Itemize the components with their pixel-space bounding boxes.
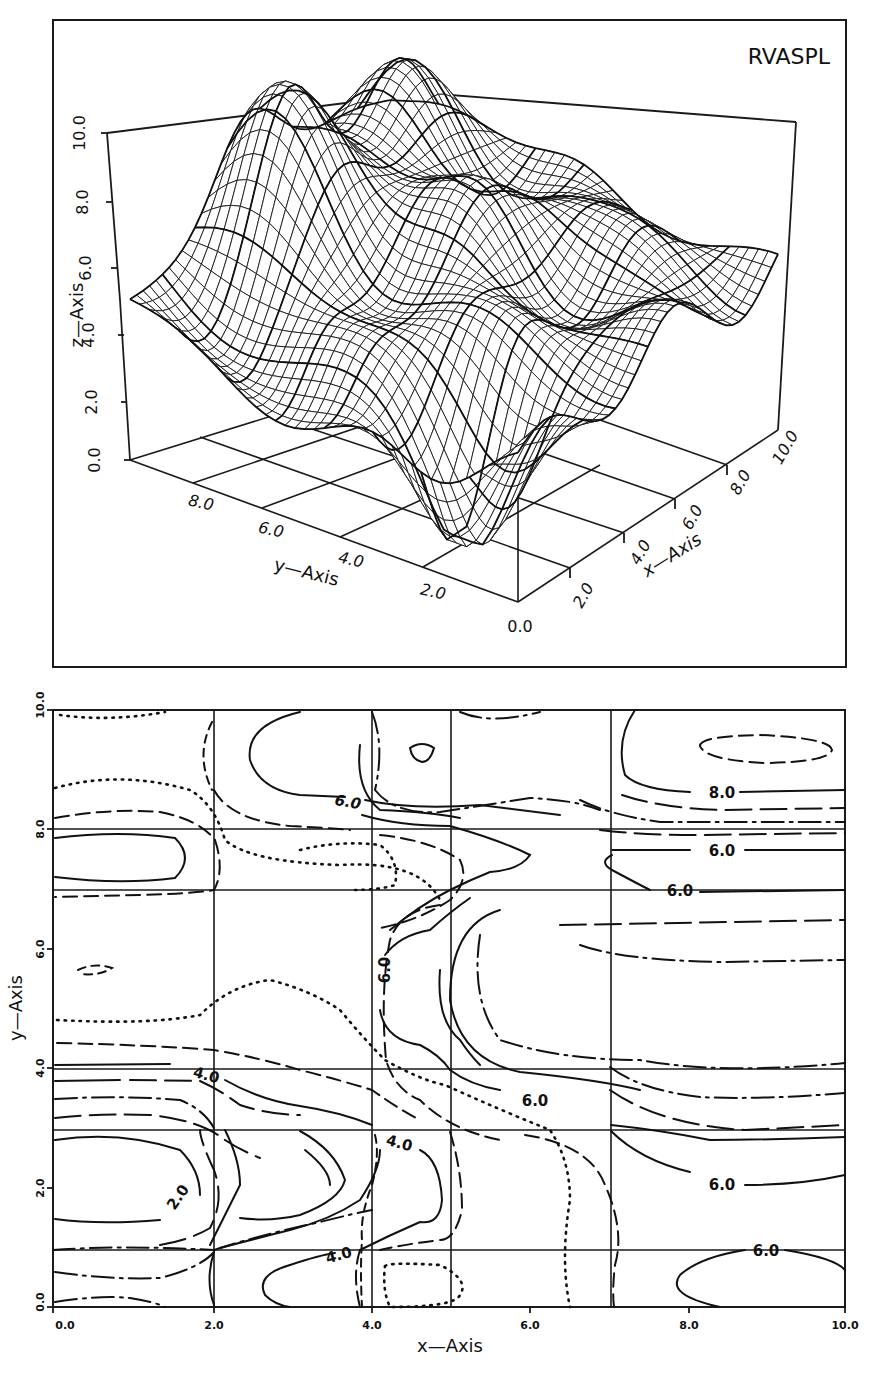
x-axis-3d: 0.0 2.0 4.0 6.0 8.0 10.0 x—Axis: [507, 427, 802, 636]
y-axis-3d-label: y—Axis: [272, 554, 341, 590]
contour-level-labels: 6.0 8.0 6.0 6.0 6.0 6.0 6.0 6.0 4.0 4.0 …: [163, 784, 779, 1267]
contour-label: 8.0: [709, 784, 736, 802]
x-tick: 4.0: [362, 1319, 382, 1332]
contour-label: 4.0: [384, 1131, 414, 1155]
contour-y-ticks: 0.0 2.0 4.0 6.0 8.0 10.0 y—Axis: [5, 691, 53, 1312]
z-tick-2: 2.0: [82, 389, 101, 414]
x-tick: 6.0: [520, 1319, 540, 1332]
contour-label: 6.0: [709, 842, 736, 860]
x-tick: 2.0: [204, 1319, 224, 1332]
surface-title: RVASPL: [748, 44, 831, 69]
x-tick-8: 8.0: [726, 466, 755, 498]
y-tick: 0.0: [34, 1292, 47, 1312]
contour-label: 6.0: [667, 882, 694, 900]
x-tick-0: 0.0: [507, 617, 532, 636]
x-tick: 0.0: [55, 1319, 75, 1332]
y-tick-8: 8.0: [187, 491, 216, 515]
z-tick-8: 8.0: [73, 189, 92, 214]
contour-label: 4.0: [191, 1063, 221, 1087]
contour-plot: 6.0 8.0 6.0 6.0 6.0 6.0 6.0 6.0 4.0 4.0 …: [5, 691, 859, 1356]
y-axis-3d: 8.0 6.0 4.0 2.0 y—Axis: [187, 491, 448, 604]
y-tick: 8.0: [34, 819, 47, 839]
contour-y-axis-label: y—Axis: [5, 975, 26, 1041]
x-tick-2: 2.0: [569, 579, 598, 611]
z-tick-0: 0.0: [85, 447, 104, 472]
y-tick-4: 4.0: [337, 548, 366, 572]
z-tick-6: 6.0: [76, 255, 95, 280]
contour-label: 6.0: [753, 1242, 780, 1260]
contour-label: 2.0: [163, 1181, 193, 1213]
y-tick: 10.0: [34, 691, 47, 718]
contour-x-ticks: 0.0 2.0 4.0 6.0 8.0 10.0 x—Axis: [53, 1307, 859, 1356]
contour-x-axis-label: x—Axis: [417, 1335, 483, 1356]
figure-canvas: RVASPL 0.0 2.: [0, 0, 872, 1376]
surface-wireframe-mesh: [130, 58, 778, 547]
contour-label: 6.0: [376, 957, 394, 984]
x-tick: 8.0: [679, 1319, 699, 1332]
z-axis-label: z—Axis: [66, 283, 87, 348]
x-tick: 10.0: [831, 1319, 858, 1332]
contour-label: 6.0: [709, 1176, 736, 1194]
y-tick-6: 6.0: [257, 518, 286, 542]
contour-label: 6.0: [522, 1092, 549, 1110]
y-tick: 2.0: [34, 1178, 47, 1198]
y-tick: 4.0: [34, 1058, 47, 1078]
y-tick-2: 2.0: [419, 580, 448, 604]
contour-label: 6.0: [333, 791, 362, 813]
contour-label: 4.0: [324, 1243, 354, 1267]
y-tick: 6.0: [34, 939, 47, 959]
z-tick-10: 10.0: [70, 115, 89, 151]
